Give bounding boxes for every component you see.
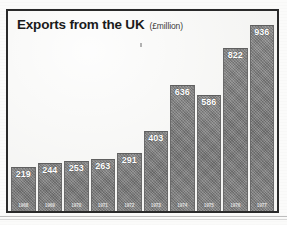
- bar-year-label: 1971: [98, 204, 108, 209]
- bar-value-label: 403: [148, 134, 163, 143]
- chart-frame: Exports from the UK (£million) 219196824…: [6, 9, 279, 213]
- bar[interactable]: 4031973: [144, 131, 169, 211]
- bar-year-label: 1975: [204, 204, 214, 209]
- bar-value-label: 822: [228, 51, 243, 60]
- bar-year-label: 1974: [177, 204, 187, 209]
- bar[interactable]: 9361977: [250, 25, 275, 211]
- bar-value-label: 636: [175, 88, 190, 97]
- chart-units-label: (£million): [149, 21, 182, 31]
- bar-year-label: 1973: [151, 204, 161, 209]
- bar-value-label: 263: [95, 162, 110, 171]
- bar-year-label: 1970: [71, 204, 81, 209]
- bar[interactable]: 2911972: [117, 153, 142, 211]
- bar-slot: 8221976: [223, 11, 248, 211]
- bar-plot-area: 2191968244196925319702631971291197240319…: [8, 11, 277, 211]
- scan-speck: [140, 43, 142, 47]
- bar[interactable]: 6361974: [170, 85, 195, 211]
- bar-slot: 2911972: [117, 11, 142, 211]
- bar[interactable]: 2191968: [11, 167, 36, 211]
- chart-title: Exports from the UK: [17, 17, 144, 32]
- bar-value-label: 291: [122, 156, 137, 165]
- bar-slot: 9361977: [250, 11, 275, 211]
- bar-year-label: 1976: [230, 204, 240, 209]
- bar-slot: 2631971: [91, 11, 116, 211]
- bar[interactable]: 8221976: [223, 48, 248, 211]
- bar-value-label: 244: [42, 166, 57, 175]
- figure: Exports from the UK (£million) 219196824…: [0, 0, 287, 225]
- bar[interactable]: 5861975: [197, 95, 222, 211]
- bar-slot: 4031973: [144, 11, 169, 211]
- bar[interactable]: 2631971: [91, 159, 116, 211]
- bar[interactable]: 2441969: [38, 163, 63, 211]
- bar-year-label: 1972: [124, 204, 134, 209]
- bar-slot: 2191968: [11, 11, 36, 211]
- bar-value-label: 586: [201, 98, 216, 107]
- bar-value-label: 936: [254, 28, 269, 37]
- bar-year-label: 1968: [18, 204, 28, 209]
- bar-slot: 5861975: [197, 11, 222, 211]
- bar-slot: 6361974: [170, 11, 195, 211]
- bar-slot: 2441969: [38, 11, 63, 211]
- chart-title-row: Exports from the UK (£million): [17, 17, 183, 32]
- bar[interactable]: 2531970: [64, 161, 89, 211]
- scan-edge-line-top: [0, 216, 287, 217]
- bar-slot: 2531970: [64, 11, 89, 211]
- bar-year-label: 1977: [257, 204, 267, 209]
- bar-value-label: 253: [69, 164, 84, 173]
- scan-edge-line-bottom: [0, 219, 287, 220]
- bar-year-label: 1969: [45, 204, 55, 209]
- bar-value-label: 219: [16, 170, 31, 179]
